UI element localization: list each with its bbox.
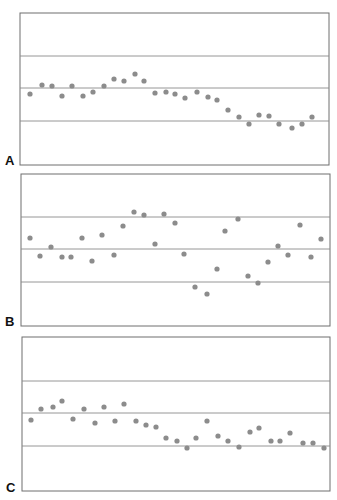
data-point	[174, 438, 179, 443]
data-point	[275, 243, 280, 248]
panel-b	[21, 174, 330, 326]
data-point	[192, 284, 197, 289]
data-point	[276, 121, 281, 126]
data-point	[80, 93, 85, 98]
data-point	[152, 241, 157, 246]
data-point	[222, 228, 227, 233]
panel-a	[20, 13, 329, 165]
data-point	[215, 433, 220, 438]
data-point	[268, 438, 273, 443]
data-point	[89, 258, 94, 263]
plot-frame	[20, 13, 329, 165]
data-point	[99, 232, 104, 237]
data-point	[214, 266, 219, 271]
data-point	[70, 416, 75, 421]
data-point	[172, 220, 177, 225]
data-point	[184, 445, 189, 450]
data-point	[285, 252, 290, 257]
panel-label-a: A	[5, 153, 14, 168]
data-point	[132, 71, 137, 76]
data-point	[204, 291, 209, 296]
data-point	[225, 107, 230, 112]
data-point	[193, 435, 198, 440]
data-point	[143, 422, 148, 427]
data-point	[265, 259, 270, 264]
data-point	[321, 445, 326, 450]
data-point	[81, 406, 86, 411]
data-point	[246, 121, 251, 126]
data-point	[111, 252, 116, 257]
data-point	[101, 83, 106, 88]
panel-label-b: B	[5, 314, 14, 329]
data-point	[92, 420, 97, 425]
data-point	[112, 418, 117, 423]
data-point	[194, 89, 199, 94]
data-point	[318, 236, 323, 241]
data-point	[204, 418, 209, 423]
data-point	[131, 209, 136, 214]
data-point	[120, 223, 125, 228]
data-point	[101, 404, 106, 409]
data-point	[59, 93, 64, 98]
data-point	[181, 251, 186, 256]
data-point	[300, 440, 305, 445]
data-point	[247, 429, 252, 434]
plot-frame	[21, 174, 330, 326]
data-point	[59, 254, 64, 259]
data-point	[27, 91, 32, 96]
data-point	[309, 114, 314, 119]
data-point	[28, 417, 33, 422]
data-point	[214, 97, 219, 102]
data-point	[172, 91, 177, 96]
data-point	[308, 254, 313, 259]
data-point	[79, 235, 84, 240]
data-point	[245, 273, 250, 278]
data-point	[277, 438, 282, 443]
data-point	[266, 113, 271, 118]
data-point	[163, 435, 168, 440]
data-point	[235, 216, 240, 221]
data-point	[297, 222, 302, 227]
data-point	[38, 406, 43, 411]
data-point	[37, 253, 42, 258]
data-point	[256, 425, 261, 430]
data-point	[225, 438, 230, 443]
data-point	[287, 430, 292, 435]
data-point	[27, 235, 32, 240]
plot-frame	[22, 337, 330, 491]
data-point	[121, 401, 126, 406]
data-point	[299, 121, 304, 126]
data-point	[141, 78, 146, 83]
data-point	[289, 125, 294, 130]
data-point	[48, 244, 53, 249]
data-point	[69, 83, 74, 88]
data-point	[182, 95, 187, 100]
data-point	[49, 83, 54, 88]
data-point	[90, 89, 95, 94]
data-point	[50, 404, 55, 409]
panel-c	[22, 337, 330, 491]
data-point	[59, 398, 64, 403]
data-point	[121, 78, 126, 83]
data-point	[161, 211, 166, 216]
data-point	[256, 112, 261, 117]
data-point	[205, 94, 210, 99]
data-point	[255, 280, 260, 285]
data-point	[163, 89, 168, 94]
data-point	[153, 424, 158, 429]
data-point	[111, 76, 116, 81]
control-charts-figure	[0, 0, 337, 500]
data-point	[68, 254, 73, 259]
data-point	[133, 418, 138, 423]
data-point	[39, 82, 44, 87]
panel-label-c: C	[6, 480, 15, 495]
data-point	[236, 444, 241, 449]
data-point	[141, 212, 146, 217]
data-point	[310, 440, 315, 445]
data-point	[152, 90, 157, 95]
data-point	[236, 114, 241, 119]
